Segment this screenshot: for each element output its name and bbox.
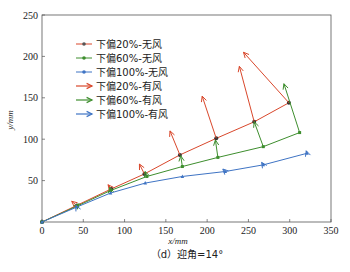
legend-label: 下偏100%-有风	[96, 108, 168, 120]
legend: 下偏20%-无风下偏60%-无风下偏100%-无风下偏20%-有风下偏60%-有…	[76, 38, 168, 120]
legend-marker-icon	[82, 70, 86, 74]
legend-marker-icon	[82, 42, 86, 46]
series-line	[42, 153, 307, 222]
arrow-shaft	[170, 131, 180, 155]
data-series	[40, 101, 309, 224]
x-axis-label: x/mm	[167, 236, 188, 246]
figure-caption: （d）迎角=14°	[151, 249, 223, 260]
legend-label: 下偏20%-无风	[96, 38, 162, 50]
x-tick-label: 100	[117, 225, 132, 236]
y-axis-label: y/mm	[5, 110, 15, 131]
legend-label: 下偏60%-有风	[96, 94, 162, 106]
x-tick-label: 150	[158, 225, 173, 236]
arrow-shaft	[284, 84, 300, 133]
legend-label: 下偏100%-无风	[96, 66, 168, 78]
x-tick-label: 350	[324, 225, 339, 236]
plot-axes: 05010015020025030035050100150200250	[23, 10, 339, 237]
y-tick-label: 150	[23, 92, 38, 103]
y-tick-label: 50	[28, 175, 38, 186]
x-tick-label: 50	[78, 225, 88, 236]
arrow-shaft	[239, 66, 254, 121]
legend-label: 下偏20%-有风	[96, 80, 162, 92]
x-tick-label: 300	[282, 225, 297, 236]
arrow-shaft	[202, 96, 216, 138]
y-tick-label: 250	[23, 10, 38, 21]
x-tick-label: 0	[40, 225, 45, 236]
legend-label: 下偏60%-无风	[96, 52, 162, 64]
x-tick-label: 250	[241, 225, 256, 236]
arrow-shaft	[243, 52, 288, 103]
chart: 05010015020025030035050100150200250 下偏20…	[0, 0, 350, 272]
plot-frame	[42, 15, 331, 222]
legend-marker-icon	[82, 56, 86, 60]
y-tick-label: 100	[23, 134, 38, 145]
y-tick-label: 200	[23, 51, 38, 62]
x-tick-label: 200	[200, 225, 215, 236]
